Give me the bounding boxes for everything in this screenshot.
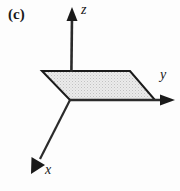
z-axis-arrowhead [67, 7, 78, 21]
x-axis-arrowhead [31, 157, 45, 174]
z-axis-label: z [81, 2, 86, 18]
z-axis-line [71, 16, 72, 72]
xy-plane-fill [42, 71, 155, 100]
y-axis-label: y [160, 67, 166, 83]
x-axis-line [40, 100, 70, 159]
coordinate-axes-diagram [0, 0, 180, 191]
y-axis-arrowhead [160, 95, 175, 106]
figure-panel: (c) z y x [0, 0, 180, 191]
x-axis-label: x [45, 162, 51, 178]
